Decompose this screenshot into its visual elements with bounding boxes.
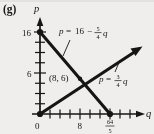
- fraction-denominator: 5: [108, 127, 111, 134]
- demand-eq-variable: q: [103, 28, 108, 38]
- supply-eq-numerator: 3: [116, 73, 119, 80]
- demand-equation-label: p = 16 − 5 4 q: [58, 25, 108, 56]
- y-tick-label-16: 16: [22, 28, 32, 38]
- demand-eq-denominator: 4: [96, 33, 99, 40]
- demand-eq-constant: 16: [75, 26, 85, 36]
- demand-eq-equals: =: [66, 26, 71, 36]
- x-tick-label-8: 8: [78, 121, 83, 131]
- part-label: (g): [3, 3, 17, 16]
- demand-eq-lhs: p: [58, 26, 64, 36]
- demand-leader-line: [63, 40, 70, 56]
- origin-label: 0: [35, 121, 40, 131]
- point-equilibrium: [78, 77, 82, 81]
- supply-eq-denominator: 4: [116, 81, 119, 88]
- y-axis-label: p: [33, 3, 39, 14]
- supply-equation-label: p = 3 4 q: [98, 60, 128, 88]
- demand-eq-minus: −: [87, 26, 92, 36]
- supply-eq-lhs: p: [98, 74, 104, 84]
- equilibrium-point-label: (8, 6): [49, 73, 69, 83]
- x-tick-label-64-over-5: 64 5: [106, 118, 115, 134]
- y-tick-label-6: 6: [27, 69, 32, 79]
- demand-eq-numerator: 5: [96, 25, 99, 32]
- point-origin: [37, 111, 43, 117]
- x-axis-label: q: [146, 108, 151, 119]
- fraction-numerator: 64: [107, 118, 113, 125]
- supply-eq-variable: q: [123, 76, 128, 86]
- figure-container: (g) p q: [0, 0, 154, 134]
- supply-eq-equals: =: [106, 74, 111, 84]
- point-p-intercept: [37, 29, 43, 35]
- supply-demand-chart: (g) p q: [0, 0, 154, 134]
- x-axis: [32, 111, 145, 118]
- point-q-intercept: [107, 111, 113, 117]
